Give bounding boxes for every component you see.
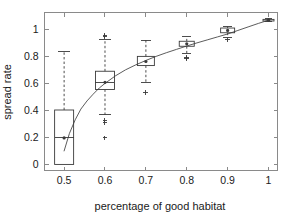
- y-axis-label: spread rate: [1, 64, 13, 120]
- x-tick-label: 0.5: [57, 174, 72, 186]
- median-marker: [185, 42, 188, 45]
- x-tick-label: 0.6: [98, 174, 113, 186]
- x-axis-label: percentage of good habitat: [95, 200, 226, 212]
- median-marker: [63, 136, 66, 139]
- x-tick-label: 0.9: [220, 174, 235, 186]
- x-tick-label: 0.8: [179, 174, 194, 186]
- y-tick-label: 1: [33, 23, 39, 35]
- x-tick-label: 1: [266, 174, 272, 186]
- y-tick-label: 0.4: [24, 104, 39, 116]
- boxplot-chart: 0.50.60.70.80.91 00.20.40.60.81 percenta…: [0, 0, 294, 216]
- median-marker: [226, 29, 229, 32]
- median-marker: [103, 81, 106, 84]
- median-marker: [267, 19, 270, 22]
- y-tick-label: 0.2: [24, 131, 39, 143]
- chart-figure: 0.50.60.70.80.91 00.20.40.60.81 percenta…: [0, 0, 294, 216]
- y-tick-label: 0.6: [24, 77, 39, 89]
- median-marker: [144, 60, 147, 63]
- x-tick-label: 0.7: [139, 174, 154, 186]
- y-tick-label: 0: [33, 158, 39, 170]
- y-tick-label: 0.8: [24, 50, 39, 62]
